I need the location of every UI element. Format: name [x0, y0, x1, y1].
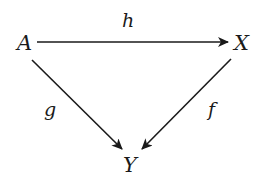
node-A: A: [15, 31, 32, 55]
node-Y: Y: [123, 153, 139, 177]
edge-label-h: h: [122, 9, 134, 31]
commutative-diagram: h g f A X Y: [0, 0, 270, 189]
edge-label-f: f: [206, 98, 218, 120]
edge-label-g: g: [44, 98, 56, 120]
node-X: X: [232, 31, 250, 55]
arrow-f: [142, 59, 231, 149]
